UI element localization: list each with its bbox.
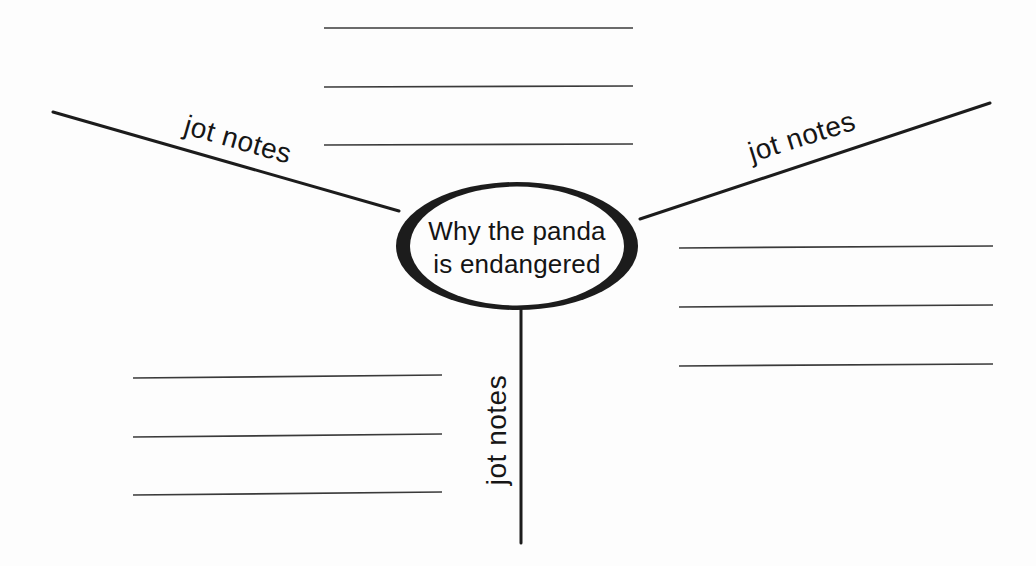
note-line-group-right — [679, 246, 993, 366]
note-line — [133, 434, 442, 437]
worksheet-canvas: Why the panda is endangered jot notes jo… — [0, 0, 1036, 566]
note-line — [679, 364, 993, 366]
note-line — [324, 144, 633, 145]
note-line-group-top — [324, 28, 633, 145]
note-line — [679, 246, 993, 248]
note-line — [324, 86, 633, 87]
branch-label-bottom: jot notes — [481, 375, 513, 485]
center-topic-text: Why the panda is endangered — [428, 215, 606, 280]
note-line-group-bottom-left — [133, 375, 442, 495]
note-line — [679, 305, 993, 307]
center-topic-line2: is endangered — [428, 247, 606, 280]
note-line — [133, 375, 442, 378]
center-topic-line1: Why the panda — [428, 215, 606, 248]
web-diagram — [0, 0, 1036, 566]
note-line — [133, 492, 442, 495]
